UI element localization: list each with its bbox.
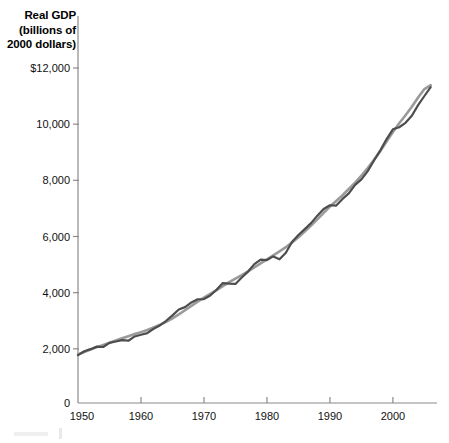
real-gdp-line xyxy=(78,87,431,355)
y-axis-tick-label: 8,000 xyxy=(0,174,70,186)
y-axis-tick-label: 6,000 xyxy=(0,231,70,243)
origin-zero-label: 0 xyxy=(0,397,70,409)
x-axis-tick-label: 2000 xyxy=(363,410,423,422)
x-axis-tick-label: 1990 xyxy=(300,410,360,422)
page-edge-artifact xyxy=(14,432,48,436)
page-edge-artifact-2 xyxy=(59,428,62,439)
y-axis-tick-label: $12,000 xyxy=(0,62,70,74)
x-axis-tick-label: 1950 xyxy=(52,410,112,422)
x-axis-tick-label: 1980 xyxy=(237,410,297,422)
x-axis-tick-label: 1970 xyxy=(174,410,234,422)
gdp-chart-figure: Real GDP (billions of 2000 dollars) 2,00… xyxy=(0,0,449,443)
y-axis-tick-label: 4,000 xyxy=(0,287,70,299)
y-axis-tick-label: 2,000 xyxy=(0,343,70,355)
axis-lines xyxy=(78,16,437,403)
x-axis-ticks xyxy=(141,397,393,403)
y-axis-tick-label: 10,000 xyxy=(0,118,70,130)
data-series xyxy=(78,85,431,355)
potential-gdp-line xyxy=(78,85,431,354)
x-axis-tick-label: 1960 xyxy=(111,410,171,422)
